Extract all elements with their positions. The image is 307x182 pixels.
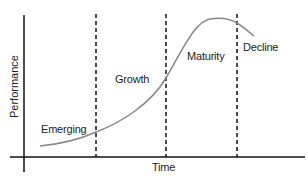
lifecycle-diagram (0, 0, 307, 182)
stage-label-decline: Decline (243, 41, 278, 53)
stage-label-growth: Growth (115, 73, 149, 85)
x-axis-label: Time (152, 161, 175, 173)
y-axis-label: Performance (8, 55, 20, 118)
stage-label-maturity: Maturity (187, 50, 225, 62)
stage-label-emerging: Emerging (41, 123, 86, 135)
